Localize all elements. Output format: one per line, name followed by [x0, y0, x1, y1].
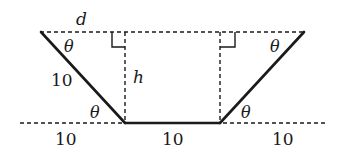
label-slant-10: 10 [51, 70, 73, 90]
label-bottom-left-10: 10 [55, 129, 77, 149]
label-theta-top-left: θ [64, 37, 74, 56]
trapezoid-diagram: d θ 10 h θ θ θ 10 10 10 [0, 0, 339, 152]
right-slant-side [220, 32, 304, 123]
label-bottom-right-10: 10 [272, 129, 294, 149]
label-bottom-middle-10: 10 [162, 129, 184, 149]
label-h: h [133, 67, 144, 87]
right-angle-marker-right [220, 32, 235, 47]
label-d: d [76, 9, 87, 29]
right-angle-marker-left [112, 32, 125, 47]
label-theta-bottom-left: θ [90, 103, 100, 122]
label-theta-bottom-right: θ [241, 103, 251, 122]
label-theta-top-right: θ [270, 37, 280, 56]
